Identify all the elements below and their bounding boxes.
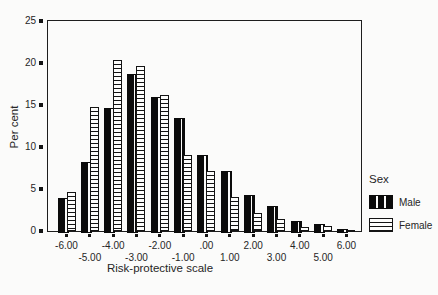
y-tick-label: 20 — [8, 57, 36, 69]
y-tick-mark — [39, 103, 43, 107]
x-tick-label: -2.00 — [141, 240, 179, 251]
bar-female-5.00 — [323, 226, 332, 231]
legend-label-female: Female — [399, 220, 432, 231]
x-tick-label: 3.00 — [257, 252, 295, 263]
legend-entry-female: Female — [369, 218, 432, 232]
y-tick-label: 5 — [8, 183, 36, 195]
bar-female-1.00 — [230, 197, 239, 231]
female-swatch-icon — [369, 218, 393, 232]
y-tick-label: 15 — [8, 99, 36, 111]
figure: Per cent 0510152025-6.00-5.00-4.00-3.00-… — [0, 0, 438, 295]
bar-female--2.00 — [160, 95, 169, 231]
x-tick-mark — [205, 234, 208, 237]
legend-title: Sex — [369, 173, 432, 185]
x-tick-mark — [88, 234, 91, 237]
y-tick-label: 0 — [8, 225, 36, 237]
y-tick-mark — [39, 187, 43, 191]
bar-female-6.00 — [346, 230, 355, 232]
x-tick-label: -6.00 — [48, 240, 86, 251]
bar-female-.00 — [206, 171, 215, 231]
x-tick-mark — [158, 234, 161, 237]
x-tick-mark — [345, 234, 348, 237]
legend-label-male: Male — [399, 197, 421, 208]
x-tick-mark — [275, 234, 278, 237]
y-tick-mark — [39, 145, 43, 149]
x-tick-mark — [298, 234, 301, 237]
bar-female--3.00 — [136, 66, 145, 231]
x-tick-mark — [65, 234, 68, 237]
x-tick-mark — [135, 234, 138, 237]
x-tick-mark — [252, 234, 255, 237]
y-tick-label: 25 — [8, 15, 36, 27]
x-tick-label: 4.00 — [281, 240, 319, 251]
plot-area: 0510152025-6.00-5.00-4.00-3.00-2.00-1.00… — [47, 20, 362, 232]
bar-female-4.00 — [300, 227, 309, 231]
x-tick-label: 5.00 — [304, 252, 342, 263]
legend: Sex Male Female — [369, 173, 432, 241]
bar-female--1.00 — [183, 155, 192, 231]
y-tick-mark — [39, 229, 43, 233]
x-tick-mark — [322, 234, 325, 237]
bar-female--5.00 — [90, 107, 99, 231]
x-tick-label: 2.00 — [234, 240, 272, 251]
bar-female--4.00 — [113, 60, 122, 231]
y-tick-label: 10 — [8, 141, 36, 153]
x-tick-mark — [228, 234, 231, 237]
x-tick-label: -4.00 — [94, 240, 132, 251]
x-tick-label: .00 — [187, 240, 225, 251]
bar-female-2.00 — [253, 213, 262, 231]
x-tick-label: 6.00 — [327, 240, 365, 251]
x-tick-mark — [112, 234, 115, 237]
x-tick-mark — [182, 234, 185, 237]
y-tick-mark — [39, 61, 43, 65]
legend-entry-male: Male — [369, 195, 432, 209]
bar-female-3.00 — [276, 219, 285, 231]
x-axis-title: Risk-protective scale — [60, 262, 260, 274]
bar-female--6.00 — [67, 192, 76, 231]
male-swatch-icon — [369, 195, 393, 209]
y-tick-mark — [39, 19, 43, 23]
